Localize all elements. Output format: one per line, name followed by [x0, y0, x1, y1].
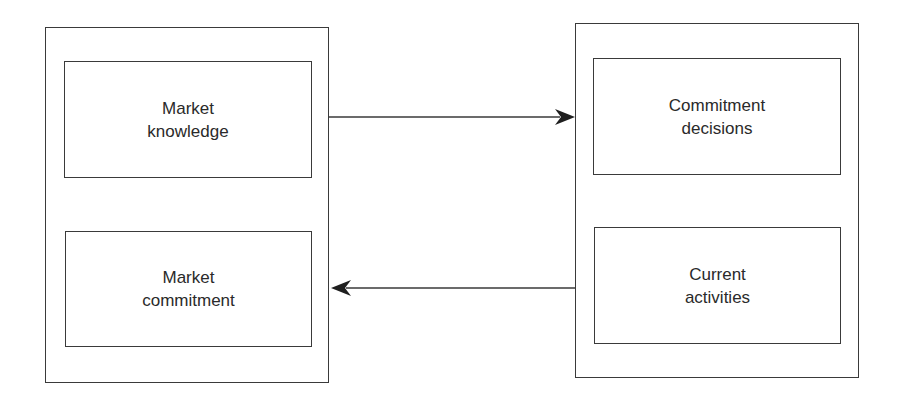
market-commitment-label: Market commitment	[142, 266, 235, 312]
current-activities-label: Current activities	[685, 263, 750, 309]
current-activities-box: Current activities	[594, 227, 841, 344]
market-knowledge-label: Market knowledge	[147, 97, 228, 143]
market-commitment-box: Market commitment	[65, 231, 312, 347]
market-knowledge-box: Market knowledge	[64, 61, 312, 178]
commitment-decisions-label: Commitment decisions	[669, 94, 765, 140]
arrow-left-icon	[331, 280, 575, 296]
commitment-decisions-box: Commitment decisions	[593, 58, 841, 175]
arrow-right-icon	[329, 109, 575, 125]
